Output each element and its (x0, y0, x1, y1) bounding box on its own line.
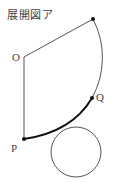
point-A (91, 17, 95, 21)
label-Q: Q (96, 91, 104, 103)
base-circle (51, 127, 101, 177)
label-P: P (11, 142, 17, 154)
radius-OA (24, 19, 93, 57)
cone-net-diagram: O P Q (0, 0, 115, 182)
arc-Q-P (24, 98, 92, 139)
label-O: O (12, 51, 20, 63)
arc-A-Q (92, 19, 102, 98)
point-Q (90, 96, 94, 100)
point-P (22, 137, 26, 141)
